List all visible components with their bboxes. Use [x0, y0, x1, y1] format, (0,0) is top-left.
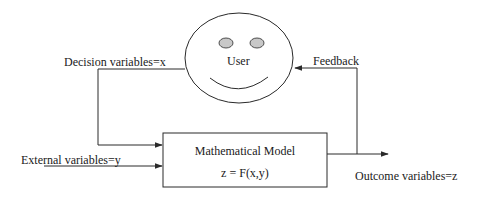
model-box-equation: z = F(x,y): [163, 166, 327, 180]
feedback-label: Feedback: [313, 54, 359, 68]
outcome-variables-label: Outcome variables=z: [355, 169, 457, 183]
diagram-canvas: User Decision variables=x External varia…: [0, 0, 480, 198]
left-eye-icon: [219, 38, 233, 48]
decision-variables-label: Decision variables=x: [64, 55, 166, 69]
model-box-title: Mathematical Model: [163, 144, 327, 158]
user-label: User: [227, 54, 250, 68]
right-eye-icon: [250, 38, 264, 48]
external-variables-label: External variables=y: [21, 153, 121, 167]
smile-icon: [210, 77, 268, 89]
model-box: Mathematical Model z = F(x,y): [163, 133, 327, 187]
